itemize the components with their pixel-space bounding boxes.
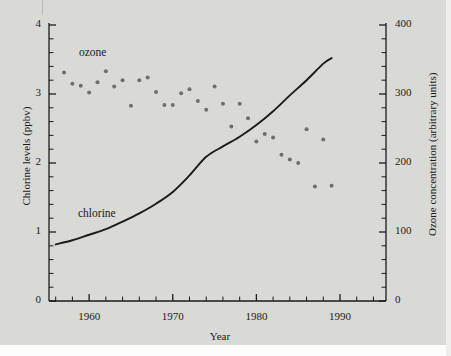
ozone-data-point bbox=[154, 90, 158, 94]
ozone-data-point bbox=[129, 104, 133, 108]
ozone-data-point bbox=[87, 91, 91, 95]
ozone-data-point bbox=[146, 75, 150, 79]
ozone-data-point bbox=[104, 69, 108, 73]
y2-tick-label-100: 100 bbox=[395, 224, 425, 236]
ozone-data-point bbox=[204, 108, 208, 112]
series-annotation-ozone: ozone bbox=[79, 46, 106, 58]
ozone-data-point bbox=[221, 102, 225, 106]
ozone-data-point bbox=[305, 127, 309, 131]
ozone-data-point bbox=[179, 91, 183, 95]
axes-spines bbox=[49, 23, 386, 301]
x-axis-label: Year bbox=[150, 330, 290, 342]
ozone-data-point bbox=[238, 102, 242, 106]
x-tick-label-1980: 1980 bbox=[236, 310, 276, 322]
page-bottom-margin bbox=[0, 345, 451, 356]
ozone-data-point bbox=[321, 138, 325, 142]
ozone-data-point bbox=[271, 135, 275, 139]
ozone-data-point bbox=[112, 84, 116, 88]
ozone-data-point bbox=[330, 184, 334, 188]
tick-marks bbox=[49, 25, 386, 301]
ozone-data-point bbox=[137, 78, 141, 82]
y2-tick-label-200: 200 bbox=[395, 155, 425, 167]
y-tick-label-4: 4 bbox=[19, 17, 41, 29]
ozone-data-point bbox=[288, 158, 292, 162]
y2-tick-label-300: 300 bbox=[395, 86, 425, 98]
ozone-data-point bbox=[187, 87, 191, 91]
figure-panel: 1960197019801990012340100200300400 Chlor… bbox=[0, 0, 451, 356]
ozone-data-point bbox=[121, 78, 125, 82]
y2-tick-label-0: 0 bbox=[395, 293, 425, 305]
ozone-data-point bbox=[162, 103, 166, 107]
y-tick-label-0: 0 bbox=[19, 293, 41, 305]
x-tick-label-1960: 1960 bbox=[69, 310, 109, 322]
chart-canvas bbox=[0, 0, 451, 356]
y-axis-label-left: Chlorine levels (ppbv) bbox=[20, 86, 32, 226]
ozone-data-point bbox=[79, 84, 83, 88]
ozone-data-point bbox=[254, 140, 258, 144]
ozone-data-point bbox=[246, 116, 250, 120]
ozone-data-point bbox=[279, 153, 283, 157]
ozone-data-point bbox=[96, 80, 100, 84]
series-annotation-chlorine: chlorine bbox=[78, 207, 116, 219]
ozone-data-point bbox=[229, 124, 233, 128]
ozone-data-point bbox=[62, 71, 66, 75]
x-tick-label-1990: 1990 bbox=[320, 310, 360, 322]
ozone-data-point bbox=[263, 132, 267, 136]
ozone-data-point bbox=[171, 103, 175, 107]
ozone-data-point bbox=[296, 161, 300, 165]
x-tick-label-1970: 1970 bbox=[153, 310, 193, 322]
y-axis-label-right: Ozone concentration (arbitrary units) bbox=[426, 76, 438, 236]
ozone-data-point bbox=[70, 82, 74, 86]
page-right-margin bbox=[446, 0, 451, 356]
ozone-data-point bbox=[313, 184, 317, 188]
ozone-data-point bbox=[196, 99, 200, 103]
y2-tick-label-400: 400 bbox=[395, 17, 425, 29]
ozone-data-point bbox=[213, 84, 217, 88]
